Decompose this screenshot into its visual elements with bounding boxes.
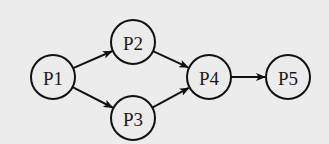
node-p4: P4 (187, 55, 231, 99)
node-p1: P1 (31, 55, 75, 99)
node-label: P4 (199, 68, 220, 89)
node-p5: P5 (266, 55, 310, 99)
node-label: P3 (123, 109, 143, 130)
diagram-canvas: P1P2P3P4P5 (0, 0, 329, 144)
edge-p3-to-p4 (152, 88, 188, 108)
edges-layer (73, 51, 265, 107)
edge-p2-to-p4 (153, 51, 188, 67)
nodes-layer: P1P2P3P4P5 (31, 20, 310, 140)
node-label: P1 (43, 68, 63, 89)
precedence-graph: P1P2P3P4P5 (0, 0, 329, 144)
edge-p1-to-p3 (73, 87, 113, 107)
node-p3: P3 (111, 96, 155, 140)
node-label: P5 (278, 68, 298, 89)
edge-p1-to-p2 (73, 51, 112, 68)
node-label: P2 (123, 33, 143, 54)
node-p2: P2 (111, 20, 155, 64)
